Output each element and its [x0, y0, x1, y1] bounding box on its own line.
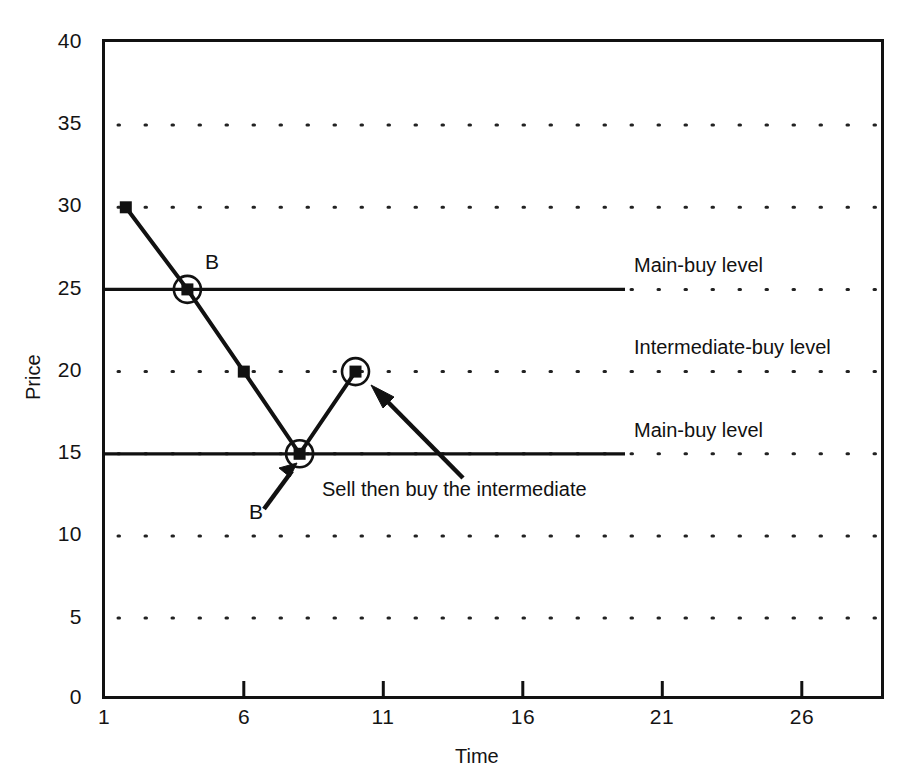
x-tick-label-11: 11: [363, 705, 403, 729]
arrow-to-buy-point-shaft: [264, 471, 292, 509]
y-tick-label-35: 35: [32, 111, 82, 135]
price-line: [126, 207, 356, 453]
arrow-to-sell-point: [371, 385, 463, 478]
x-axis-title: Time: [455, 745, 499, 768]
x-tick-label-26: 26: [782, 705, 822, 729]
gridlines: [118, 125, 880, 618]
y-tick-label-25: 25: [32, 276, 82, 300]
price-time-chart: 40 35 30 25 20 15 10 5 0 Price 1 6 11 16…: [0, 0, 907, 783]
marker-point-5: [350, 366, 362, 378]
arrow-to-buy-point: [264, 463, 297, 509]
x-tick-label-16: 16: [503, 705, 543, 729]
x-tick-label-6: 6: [224, 705, 264, 729]
y-tick-label-5: 5: [32, 605, 82, 629]
y-tick-label-40: 40: [32, 29, 82, 53]
arrow-to-sell-point-shaft: [381, 395, 463, 478]
level-label-main-buy-bottom: Main-buy level: [634, 419, 763, 442]
y-tick-label-30: 30: [32, 193, 82, 217]
x-tick-label-1: 1: [84, 705, 124, 729]
plot-frame: [104, 41, 883, 698]
sell-buy-callout: Sell then buy the intermediate: [322, 478, 587, 501]
marker-point-2: [181, 283, 193, 295]
y-tick-label-10: 10: [32, 522, 82, 546]
level-label-main-buy-top: Main-buy level: [634, 254, 763, 277]
marker-point-4: [294, 448, 306, 460]
marker-point-1: [120, 201, 132, 213]
marker-point-3: [238, 366, 250, 378]
x-tick-label-21: 21: [642, 705, 682, 729]
buy-annotation-upper: B: [205, 250, 219, 274]
x-axis-ticks: [244, 681, 802, 697]
y-axis-title: Price: [22, 354, 45, 400]
y-tick-label-0: 0: [32, 685, 82, 709]
chart-canvas: [0, 0, 907, 783]
y-tick-label-15: 15: [32, 440, 82, 464]
signal-circles: [174, 276, 369, 467]
level-label-intermediate-buy: Intermediate-buy level: [634, 336, 831, 359]
buy-annotation-lower: B: [249, 500, 263, 524]
arrow-to-buy-point-head: [279, 463, 297, 477]
price-markers: [120, 201, 362, 460]
